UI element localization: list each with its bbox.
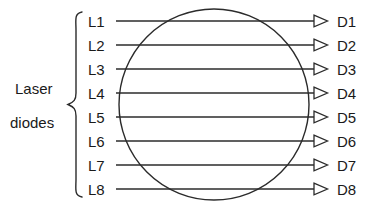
beam-path-2 [116,39,328,51]
beam-path-5 [116,111,328,123]
lens-circle [119,9,309,200]
beam-path-6 [116,135,328,147]
detector-label-d7: D7 [337,158,356,173]
beam-path-8 [116,183,328,195]
source-label-l7: L7 [88,158,105,173]
beam-path-3 [116,63,328,75]
source-label-l4: L4 [88,86,105,101]
arrowhead-4 [314,87,328,99]
arrowhead-6 [314,135,328,147]
arrowhead-2 [314,39,328,51]
laser-group-label-line1: Laser [15,81,53,96]
arrowhead-1 [314,15,328,27]
detector-label-d2: D2 [337,38,356,53]
arrowhead-8 [314,183,328,195]
detector-label-d4: D4 [337,86,356,101]
detector-label-d8: D8 [337,182,356,197]
laser-group-label-line2: diodes [10,115,54,130]
detector-label-d5: D5 [337,110,356,125]
figure-container: Laser diodes L1 L2 L3 L4 L5 L6 L7 L8 D1 … [0,0,371,210]
source-label-l5: L5 [88,110,105,125]
laser-group-brace [68,12,82,197]
arrowhead-5 [314,111,328,123]
detector-label-d1: D1 [337,14,356,29]
source-label-l8: L8 [88,182,105,197]
detector-label-d3: D3 [337,62,356,77]
source-label-l2: L2 [88,38,105,53]
source-label-l3: L3 [88,62,105,77]
source-label-l6: L6 [88,134,105,149]
beam-path-1 [116,15,328,27]
source-label-l1: L1 [88,14,105,29]
arrowhead-3 [314,63,328,75]
arrowhead-7 [314,159,328,171]
beam-path-4 [116,87,328,99]
beam-path-7 [116,159,328,171]
detector-label-d6: D6 [337,134,356,149]
optical-link-diagram [0,0,371,210]
